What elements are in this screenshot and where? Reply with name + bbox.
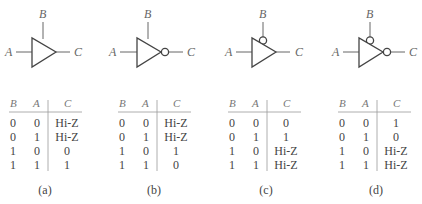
- enable-label: B: [366, 7, 374, 21]
- table-row: 0 1 Hi-Z: [119, 130, 188, 144]
- svg-text:0: 0: [253, 144, 259, 158]
- svg-text:1: 1: [253, 158, 259, 172]
- svg-text:1: 1: [119, 144, 125, 158]
- svg-text:0: 0: [119, 116, 125, 130]
- svg-text:1: 1: [173, 144, 179, 158]
- svg-text:0: 0: [339, 130, 345, 144]
- svg-text:1: 1: [283, 130, 289, 144]
- svg-text:Hi-Z: Hi-Z: [55, 116, 78, 130]
- enable-label: B: [144, 7, 152, 21]
- svg-text:1: 1: [34, 130, 40, 144]
- table-row: 1 1 1: [10, 158, 70, 172]
- table-row: 1 1 Hi-Z: [229, 158, 298, 172]
- svg-text:1: 1: [229, 144, 235, 158]
- enable-label: B: [39, 7, 47, 21]
- svg-text:Hi-Z: Hi-Z: [384, 158, 407, 172]
- input-label: A: [4, 45, 13, 59]
- panel-caption: (d): [369, 183, 383, 197]
- table-row: 0 0 1: [339, 116, 399, 130]
- header-c: C: [393, 97, 401, 109]
- panel-c: B A C B A C 0 0 0 0 1 1: [224, 7, 304, 197]
- svg-text:0: 0: [283, 116, 289, 130]
- svg-text:0: 0: [229, 130, 235, 144]
- table-row: 1 1 Hi-Z: [339, 158, 408, 172]
- panel-caption: (c): [259, 183, 272, 197]
- buffer-triangle-icon: [32, 38, 56, 67]
- svg-text:1: 1: [119, 158, 125, 172]
- header-a: A: [141, 97, 149, 109]
- panel-a: B A C B A C 0 0 Hi-Z 0 1 Hi-Z: [4, 7, 83, 197]
- svg-text:0: 0: [119, 130, 125, 144]
- svg-text:0: 0: [34, 144, 40, 158]
- svg-text:1: 1: [253, 130, 259, 144]
- header-b: B: [10, 97, 17, 109]
- svg-text:0: 0: [253, 116, 259, 130]
- panel-caption: (a): [38, 183, 51, 197]
- svg-text:1: 1: [339, 144, 345, 158]
- active-low-inverting-buffer-symbol: B A C: [331, 7, 418, 67]
- svg-text:0: 0: [339, 116, 345, 130]
- header-c: C: [173, 97, 181, 109]
- enable-label: B: [259, 7, 267, 21]
- svg-text:1: 1: [363, 130, 369, 144]
- svg-text:0: 0: [10, 130, 16, 144]
- svg-text:1: 1: [229, 158, 235, 172]
- truth-table: B A C 0 0 Hi-Z 0 1 Hi-Z 1 0 1 1 1: [118, 97, 191, 172]
- svg-text:0: 0: [143, 144, 149, 158]
- table-row: 0 0 Hi-Z: [10, 116, 79, 130]
- svg-text:1: 1: [10, 144, 16, 158]
- table-row: 0 0 Hi-Z: [119, 116, 188, 130]
- table-row: 1 0 Hi-Z: [339, 144, 408, 158]
- tristate-buffer-figure: B A C B A C 0 0 Hi-Z 0 1 Hi-Z: [0, 0, 422, 204]
- header-c: C: [64, 97, 72, 109]
- svg-text:0: 0: [10, 116, 16, 130]
- output-label: C: [74, 45, 83, 59]
- input-label: A: [108, 45, 117, 59]
- table-row: 1 0 Hi-Z: [229, 144, 298, 158]
- svg-text:1: 1: [363, 158, 369, 172]
- svg-text:1: 1: [339, 158, 345, 172]
- svg-text:1: 1: [393, 116, 399, 130]
- svg-text:0: 0: [64, 144, 70, 158]
- truth-table: B A C 0 0 1 0 1 0 1 0 Hi-Z 1 1: [338, 97, 411, 172]
- table-row: 1 1 0: [119, 158, 179, 172]
- table-row: 0 1 0: [339, 130, 399, 144]
- input-label: A: [224, 45, 233, 59]
- svg-text:1: 1: [34, 158, 40, 172]
- truth-table: B A C 0 0 0 0 1 1 1 0 Hi-Z 1 1: [228, 97, 301, 172]
- buffer-symbol: B A C: [4, 7, 83, 67]
- header-b: B: [229, 97, 236, 109]
- svg-text:1: 1: [143, 130, 149, 144]
- svg-text:0: 0: [363, 144, 369, 158]
- header-b: B: [119, 97, 126, 109]
- svg-text:0: 0: [363, 116, 369, 130]
- svg-text:Hi-Z: Hi-Z: [164, 130, 187, 144]
- output-inversion-bubble-icon: [161, 48, 168, 55]
- svg-text:1: 1: [64, 158, 70, 172]
- truth-table: B A C 0 0 Hi-Z 0 1 Hi-Z 1 0 0 1 1: [9, 97, 82, 172]
- svg-text:0: 0: [393, 130, 399, 144]
- output-label: C: [295, 45, 304, 59]
- header-b: B: [339, 97, 346, 109]
- panel-b: B A C B A C 0 0 Hi-Z 0 1 Hi-Z: [108, 7, 196, 197]
- panel-d: B A C B A C 0 0 1 0 1 0: [331, 7, 418, 197]
- svg-text:1: 1: [10, 158, 16, 172]
- table-row: 0 0 0: [229, 116, 289, 130]
- svg-text:0: 0: [34, 116, 40, 130]
- header-a: A: [32, 97, 40, 109]
- output-label: C: [187, 45, 196, 59]
- table-row: 1 0 0: [10, 144, 70, 158]
- svg-text:0: 0: [173, 158, 179, 172]
- svg-text:Hi-Z: Hi-Z: [384, 144, 407, 158]
- header-c: C: [283, 97, 291, 109]
- buffer-triangle-icon: [137, 38, 161, 67]
- table-row: 1 0 1: [119, 144, 179, 158]
- output-label: C: [409, 45, 418, 59]
- svg-text:0: 0: [229, 116, 235, 130]
- svg-text:0: 0: [143, 116, 149, 130]
- panel-caption: (b): [147, 183, 161, 197]
- svg-text:Hi-Z: Hi-Z: [274, 144, 297, 158]
- header-a: A: [361, 97, 369, 109]
- svg-text:Hi-Z: Hi-Z: [55, 130, 78, 144]
- inverting-buffer-symbol: B A C: [108, 7, 196, 67]
